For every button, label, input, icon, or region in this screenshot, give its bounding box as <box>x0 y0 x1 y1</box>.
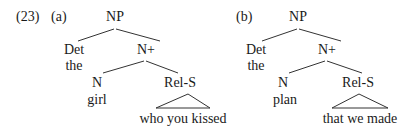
edge-np-det-b <box>262 29 297 41</box>
word-n-a: girl <box>87 93 106 107</box>
example-number: (23) <box>16 10 39 24</box>
edge-nbar-n-a <box>103 61 144 73</box>
phrase-rels-b: that we made <box>323 112 398 126</box>
triangle-rels-b <box>332 94 388 108</box>
edge-np-nbar-b <box>299 29 341 41</box>
node-nbar-b: N+ <box>318 43 336 57</box>
node-nbar-a: N+ <box>137 43 155 57</box>
tree-label-a: (a) <box>51 10 67 24</box>
edge-np-nbar-a <box>116 29 160 41</box>
phrase-rels-a: who you kissed <box>139 112 226 126</box>
node-np-a: NP <box>106 10 124 24</box>
edge-nbar-n-b <box>289 61 325 73</box>
node-det-b: Det <box>246 43 266 57</box>
node-n-b: N <box>278 76 288 90</box>
word-det-a: the <box>65 59 82 73</box>
node-rels-b: Rel-S <box>342 76 374 90</box>
edge-nbar-rels-a <box>146 61 178 73</box>
edge-nbar-rels-b <box>327 61 362 73</box>
node-det-a: Det <box>64 43 84 57</box>
edge-np-det-a <box>78 29 114 41</box>
tree-label-b: (b) <box>236 10 252 24</box>
node-rels-a: Rel-S <box>164 76 196 90</box>
word-det-b: the <box>247 59 264 73</box>
triangle-rels-a <box>156 94 210 108</box>
word-n-b: plan <box>273 93 297 107</box>
node-np-b: NP <box>289 10 307 24</box>
node-n-a: N <box>92 76 102 90</box>
